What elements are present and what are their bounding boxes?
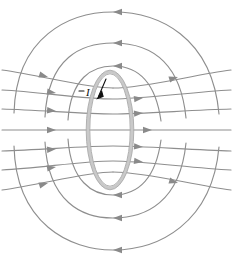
arrowhead-top-inner	[113, 63, 122, 69]
field-line-through-lower-outer	[2, 161, 231, 170]
magnetic-field-loop-figure: I	[0, 0, 234, 267]
arrowhead-through-center-left	[47, 127, 56, 133]
field-line-through-lower-inner	[2, 146, 231, 151]
field-lines-top-group	[14, 9, 219, 121]
arrowhead-outer-left-lower	[38, 180, 48, 189]
arrowhead-through-upper-inner-right	[134, 110, 143, 117]
field-diagram-canvas: I	[0, 0, 234, 267]
arrowhead-outer-left-upper	[38, 71, 48, 80]
arrowhead-through-upper-outer-right	[134, 95, 144, 102]
current-label-group: I	[79, 86, 91, 98]
field-line-through-upper-inner	[2, 109, 231, 114]
arrowhead-top-outer	[113, 9, 122, 15]
field-lines-through-group	[2, 88, 231, 171]
field-line-bottom-middle	[45, 142, 186, 218]
arrowhead-through-lower-inner-right	[134, 143, 143, 150]
field-lines-bottom-group	[14, 139, 219, 253]
arrowhead-through-upper-inner-left	[47, 107, 57, 114]
arrowhead-through-lower-inner-left	[47, 146, 57, 153]
arrowhead-through-lower-outer-right	[134, 158, 144, 165]
arrowhead-bottom-inner	[113, 192, 122, 198]
field-line-top-middle	[45, 43, 186, 118]
arrowhead-through-center-right	[143, 127, 152, 133]
field-line-through-upper-outer	[2, 90, 231, 99]
arrowhead-bottom-outer	[113, 247, 122, 253]
arrowhead-bottom-middle	[113, 215, 122, 221]
arrowhead-top-middle	[113, 40, 122, 46]
